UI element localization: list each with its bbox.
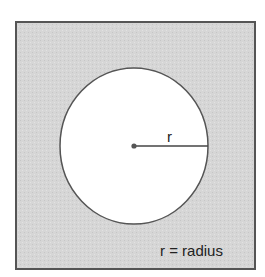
center-point-icon [131, 143, 136, 148]
circle-radius-diagram: r r = radius [0, 0, 265, 277]
legend-text: r = radius [160, 242, 223, 259]
radius-label: r [167, 128, 172, 145]
